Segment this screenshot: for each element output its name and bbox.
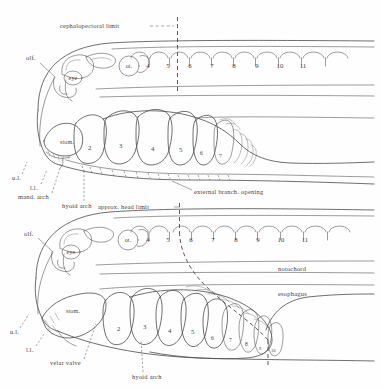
upper-somite-band: 4 5 6 7 8 9 10 11 [131, 52, 348, 69]
upper-ll-label: l.l. [30, 184, 38, 191]
upper-ul-label: u.l. [12, 174, 21, 181]
figure-canvas: cephalopectoral limit 4 5 6 7 8 9 10 11 [0, 0, 383, 388]
upper-mand-arch-leader [52, 168, 60, 193]
upper-hyoid-arch-label: hyoid arch [62, 202, 92, 209]
lower-esophagus-outline [266, 294, 374, 330]
upper-somite-5: 5 [166, 62, 170, 69]
upper-somite-10: 10 [277, 62, 284, 69]
upper-somite-11: 11 [300, 62, 307, 69]
upper-notochord-upper-line [96, 85, 374, 89]
lower-somite-6: 6 [189, 236, 193, 243]
lower-arch-num-4: 4 [168, 327, 172, 334]
upper-ul-leader [22, 162, 27, 174]
lower-velar-valve-label: velar valve [50, 359, 81, 366]
lower-olf-leader [38, 238, 53, 252]
lower-pharynx-roof [100, 284, 374, 289]
upper-olf-label: olf. [26, 54, 36, 61]
upper-arch-num-6: 6 [200, 150, 203, 156]
upper-embryo-diagram: cephalopectoral limit 4 5 6 7 8 9 10 11 [12, 17, 374, 209]
lower-esophagus-label: esophagus [278, 290, 307, 297]
upper-somite-6: 6 [188, 62, 192, 69]
lower-embryo-diagram: approx. head limit 4 5 6 7 8 9 10 11 not… [10, 203, 374, 380]
upper-ext-branch-opening-leader [172, 181, 192, 190]
lower-gill-arch-8 [239, 309, 259, 352]
upper-olf-leader [40, 63, 55, 77]
upper-arch-num-4: 4 [151, 145, 155, 152]
lower-somite-8: 8 [234, 236, 238, 243]
upper-dorsal-outline [38, 40, 374, 110]
upper-arch-num-2: 2 [88, 144, 92, 151]
upper-mand-arch-label: mand. arch [18, 193, 49, 200]
upper-gill-arch-series: 2 3 4 5 6 7 [74, 109, 256, 166]
upper-arch-num-3: 3 [119, 142, 123, 149]
lower-arch-num-6: 6 [211, 335, 214, 341]
upper-pharynx-dorsal-sweep [103, 111, 374, 164]
lower-gill-arch-2 [103, 292, 134, 344]
lower-notochord-upper-line [96, 261, 374, 265]
upper-stom-label: stom. [60, 139, 74, 145]
anatomical-figure-page: cephalopectoral limit 4 5 6 7 8 9 10 11 [0, 0, 383, 388]
lower-arch-num-3: 3 [143, 323, 147, 330]
lower-arch-num-7: 7 [229, 337, 232, 343]
lower-eye-label: eye [67, 249, 76, 255]
lower-arch-num-9: 9 [259, 346, 262, 351]
upper-gill-arch-2 [74, 115, 106, 164]
upper-somite-4: 4 [146, 62, 150, 69]
lower-notochord-label: notochord [278, 265, 307, 272]
upper-ot-label: ot. [126, 63, 133, 69]
lower-somite-10: 10 [278, 236, 285, 243]
lower-hyoid-arch-label: hyoid arch [132, 373, 162, 380]
upper-brain-region: eye ot. [53, 53, 149, 101]
lower-somite-5: 5 [166, 236, 170, 243]
lower-arch-num-5: 5 [191, 328, 195, 335]
lower-velar-valve: stom. [42, 293, 106, 346]
lower-brain-region: eye ot. [51, 227, 148, 275]
lower-arch-num-8: 8 [245, 341, 248, 347]
upper-ext-branch-opening-label: external branch. opening [194, 188, 264, 195]
lower-olf-label: olf. [24, 230, 34, 237]
upper-olf-tract [40, 77, 55, 146]
upper-somite-8: 8 [232, 62, 236, 69]
lower-dorsal-outline [36, 209, 374, 278]
lower-stom-label: stom. [66, 308, 80, 314]
lower-snout-outline [35, 278, 58, 331]
lower-somite-7: 7 [211, 236, 215, 243]
lower-olf-tract [38, 252, 53, 314]
lower-limit-label: approx. head limit [98, 203, 149, 210]
upper-arch-num-5: 5 [179, 146, 183, 153]
upper-ventral-inner [66, 160, 374, 177]
upper-somite-7: 7 [210, 62, 214, 69]
upper-ll-leader [41, 170, 47, 184]
upper-limit-label: cephalopectoral limit [60, 22, 119, 29]
lower-somite-band: 4 5 6 7 8 9 10 11 [131, 226, 350, 243]
upper-gill-arch-4 [136, 109, 172, 165]
upper-stomodeum: stom. [44, 123, 83, 168]
lower-somite-11: 11 [302, 236, 309, 243]
lower-ul-label: u.l. [10, 328, 19, 335]
lower-gill-arch-series: 2 3 4 5 6 7 8 9 10 [103, 286, 283, 356]
upper-dorsal-inner-line [112, 46, 374, 49]
lower-ll-label: l.l. [26, 346, 34, 353]
upper-eye-label: eye [69, 75, 78, 81]
lower-arch-num-2: 2 [117, 325, 121, 332]
upper-trunk-line-a [196, 117, 374, 118]
upper-ventral-floor [60, 165, 374, 184]
upper-arch-num-7: 7 [219, 153, 222, 159]
lower-ll-leader [36, 334, 44, 346]
lower-velar-valve-leader [84, 324, 96, 359]
lower-notochord-lower-line [100, 272, 374, 274]
lower-arch-num-10: 10 [271, 348, 276, 353]
lower-ul-leader [20, 314, 29, 328]
upper-gill-arch-3 [104, 111, 139, 164]
lower-dorsal-inner-line [114, 215, 374, 218]
lower-gill-arch-3 [130, 288, 162, 344]
upper-somite-9: 9 [255, 62, 259, 69]
upper-notochord-lower-line [100, 95, 374, 97]
lower-ot-label: ot. [125, 237, 132, 243]
lower-somite-9: 9 [256, 236, 260, 243]
